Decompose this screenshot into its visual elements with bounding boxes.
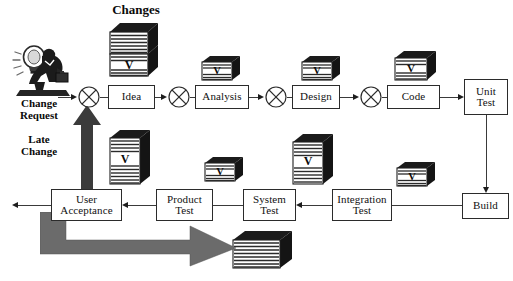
doc-code: V [393, 48, 441, 84]
link-design-junction4 [340, 97, 353, 98]
svg-text:V: V [313, 65, 321, 76]
box-system-test[interactable]: System Test [243, 189, 296, 221]
doc-analysis: V [200, 54, 244, 84]
svg-text:V: V [125, 58, 134, 72]
box-user-acceptance[interactable]: User Acceptance [51, 189, 122, 221]
doc-design: V [300, 54, 344, 84]
arrowhead-useracceptance-out [12, 202, 18, 208]
svg-text:V: V [121, 152, 130, 166]
doc-system-test: V [290, 130, 338, 188]
arrowhead-person-junction1 [71, 94, 77, 100]
box-build[interactable]: Build [462, 193, 509, 219]
label-change-request: Change Request [8, 97, 70, 121]
late-change-arrow [72, 105, 102, 193]
svg-text:V: V [407, 62, 415, 74]
link-integration-system [302, 205, 332, 206]
link-analysis-junction3 [249, 97, 258, 98]
link-person-junction1 [58, 97, 71, 98]
link-build-integration [392, 205, 462, 206]
link-useracceptance-out [18, 205, 51, 206]
arrowhead-design-junction4 [353, 94, 359, 100]
svg-text:V: V [216, 166, 224, 177]
box-integration-test[interactable]: Integration Test [332, 189, 392, 221]
box-unit-test[interactable]: Unit Test [464, 79, 508, 115]
junction-1[interactable] [78, 86, 100, 108]
box-analysis[interactable]: Analysis [195, 85, 249, 109]
doc-product-test: V [203, 155, 247, 185]
doc-integration-test: V [395, 160, 439, 190]
link-code-unittest [440, 97, 458, 98]
box-idea[interactable]: Idea [108, 85, 155, 109]
arrowhead-analysis-junction3 [258, 94, 264, 100]
svg-text:V: V [213, 65, 221, 76]
doc-late-change: V [107, 126, 155, 188]
link-system-product [213, 205, 243, 206]
box-design[interactable]: Design [292, 85, 340, 109]
diagram-canvas: Changes Change Request Late Change [0, 0, 513, 281]
doc-changes: V [106, 18, 162, 80]
link-unittest-build [486, 115, 487, 187]
box-code[interactable]: Code [387, 85, 440, 109]
doc-release [230, 228, 298, 274]
junction-4[interactable] [360, 86, 382, 108]
label-late-change: Late Change [8, 133, 70, 157]
link-junction1-idea [100, 97, 108, 98]
link-product-useracceptance [128, 205, 156, 206]
arrowhead-integration-system [296, 202, 302, 208]
junction-3[interactable] [265, 86, 287, 108]
junction-2[interactable] [168, 86, 190, 108]
box-product-test[interactable]: Product Test [156, 189, 213, 221]
svg-text:V: V [408, 171, 416, 182]
svg-text:V: V [304, 154, 313, 168]
change-request-person-icon [12, 40, 74, 96]
arrowhead-product-useracceptance [122, 202, 128, 208]
arrowhead-idea-junction2 [161, 94, 167, 100]
label-changes: Changes [104, 3, 168, 17]
